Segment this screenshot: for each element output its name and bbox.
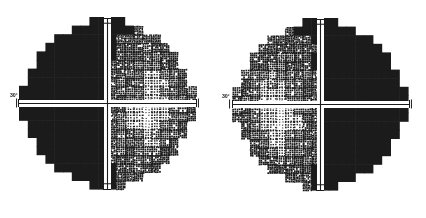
visual-field-figure: 30° 30°	[0, 0, 426, 218]
right-field-grayscale-canvas	[213, 0, 426, 218]
right-visual-field-plot	[213, 0, 426, 218]
left-field-grayscale-canvas	[0, 0, 213, 218]
left-plot-axis-degree-label: 30°	[10, 92, 17, 98]
left-visual-field-plot	[0, 0, 213, 218]
right-plot-axis-degree-label: 30°	[222, 93, 229, 99]
